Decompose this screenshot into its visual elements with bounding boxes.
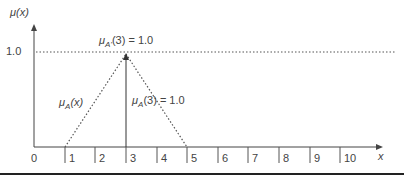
x-tick-9: 9 <box>314 152 320 164</box>
y-axis-label: μ(x) <box>10 6 29 18</box>
x-tick-1: 1 <box>69 152 75 164</box>
y-tick-label: 1.0 <box>6 45 21 57</box>
x-tick-3: 3 <box>130 152 136 164</box>
x-tick-8: 8 <box>283 152 289 164</box>
x-ticks <box>65 147 340 163</box>
x-axis-label: x <box>378 150 384 162</box>
y-axis-arrow-icon <box>31 24 37 31</box>
singleton-arrow-icon <box>123 53 129 60</box>
x-tick-5: 5 <box>191 152 197 164</box>
x-tick-10: 10 <box>344 152 356 164</box>
diagram-canvas <box>0 0 404 176</box>
left-annotation: μA(x) <box>59 96 83 111</box>
x-tick-0: 0 <box>31 152 37 164</box>
x-tick-4: 4 <box>161 152 167 164</box>
x-tick-7: 7 <box>252 152 258 164</box>
top-annotation: μA'(3) = 1.0 <box>99 34 153 49</box>
x-tick-2: 2 <box>99 152 105 164</box>
x-tick-6: 6 <box>222 152 228 164</box>
side-annotation: μA(3) = 1.0 <box>132 94 185 109</box>
